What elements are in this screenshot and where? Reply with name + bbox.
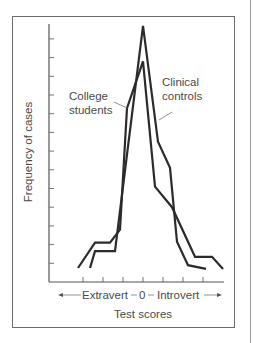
clinical-leader-line (159, 112, 172, 120)
introvert-label: Introvert (157, 289, 200, 301)
college-label-line1: College (69, 90, 108, 102)
x-axis-label: Test scores (114, 308, 172, 320)
college-leader-line (114, 102, 127, 108)
right-arrow-icon (217, 293, 222, 297)
college-label-line2: students (69, 104, 113, 116)
clinical-label-line2: controls (162, 90, 203, 102)
y-axis-label: Frequency of cases (22, 102, 34, 203)
chart: College students Clinical controls Frequ… (0, 0, 253, 343)
clinical-label-line1: Clinical (162, 76, 199, 88)
zero-label: 0 (139, 289, 145, 301)
series-clinical-controls (90, 26, 206, 269)
left-arrow-icon (58, 293, 63, 297)
axes (49, 24, 224, 282)
x-direction-row: Extravert 0 Introvert (58, 289, 222, 301)
x-ticks (83, 277, 203, 282)
y-ticks (49, 39, 54, 263)
series-layer (78, 26, 223, 269)
extravert-label: Extravert (82, 289, 129, 301)
